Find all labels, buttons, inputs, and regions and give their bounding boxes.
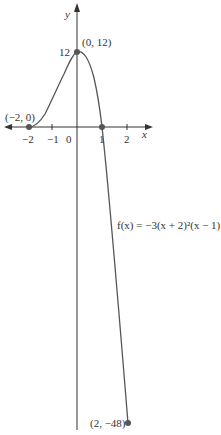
- point-neg2-0: [26, 124, 32, 130]
- y-axis: y 12: [59, 3, 80, 430]
- x-tick-label: 2: [124, 133, 130, 145]
- point-0-12: [74, 49, 80, 55]
- x-tick-label: 0: [66, 133, 72, 145]
- y-axis-arrow-icon: [74, 3, 80, 12]
- point-1-0: [99, 124, 105, 130]
- annotation-neg2-0: (−2, 0): [5, 111, 35, 124]
- x-tick-label: −1: [47, 133, 59, 145]
- function-label: f(x) = −3(x + 2)²(x − 1): [117, 219, 221, 232]
- x-axis-label: x: [141, 128, 147, 140]
- x-tick-labels: −2 −1 0 1 2: [22, 133, 130, 145]
- key-points: [26, 49, 131, 426]
- x-tick-label: −2: [22, 133, 34, 145]
- function-curve: [29, 52, 128, 423]
- function-graph: x −2 −1 0 1 2 y 12 (−2, 0) (0, 12) (2, −…: [0, 0, 221, 435]
- y-axis-label: y: [64, 8, 70, 20]
- x-axis-left-arrow-icon: [4, 124, 12, 130]
- point-2-neg48: [125, 420, 131, 426]
- annotation-0-12: (0, 12): [82, 36, 112, 49]
- y-tick-label: 12: [59, 46, 70, 58]
- annotation-2-neg48: (2, −48): [90, 417, 126, 430]
